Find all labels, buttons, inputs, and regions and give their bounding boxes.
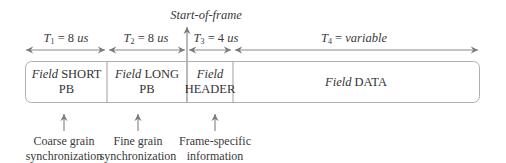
field-header: FieldHEADER — [187, 62, 233, 102]
field-short-pb: Field SHORT PB — [26, 62, 107, 102]
timing-t4: T4 = variable — [321, 31, 387, 49]
start-of-frame-label: Start-of-frame — [170, 8, 242, 23]
annotation-frame-info: Frame-specificinformation — [179, 134, 251, 163]
timing-t3: T3 = 4 us — [194, 31, 239, 49]
timing-t1: T1 = 8 us — [44, 31, 89, 49]
field-long-pb: Field LONG PB — [107, 62, 187, 102]
annotation-fine-sync: Fine grainsynchronization — [100, 134, 177, 163]
annotation-coarse-sync: Coarse grainsynchronization — [26, 134, 103, 163]
field-data: Field DATA — [233, 62, 479, 102]
timing-t2: T2 = 8 us — [124, 31, 169, 49]
